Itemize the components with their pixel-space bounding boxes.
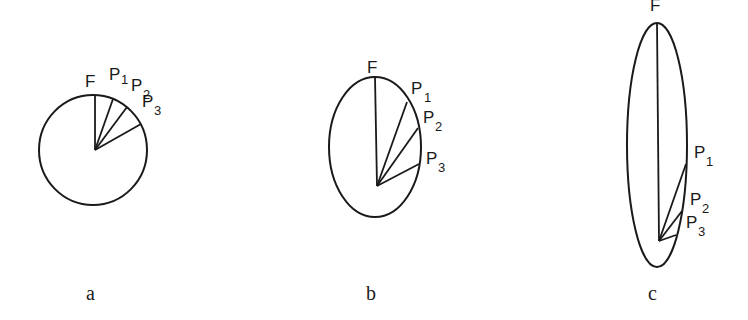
caption-b: b <box>366 282 376 304</box>
label-c-P1: P <box>694 143 705 162</box>
label-c-P3: P <box>686 213 697 232</box>
label-a-P2: P <box>131 76 142 95</box>
caption-c: c <box>648 282 657 304</box>
label-c-P3-sub: 3 <box>698 224 705 239</box>
caption-a: a <box>86 282 95 304</box>
label-b-P1: P <box>411 79 422 98</box>
label-b-P1-sub: 1 <box>424 90 431 105</box>
label-a-F: F <box>85 72 95 91</box>
label-a-P1-sub: 1 <box>121 72 128 87</box>
label-a-P3-sub: 3 <box>154 103 161 118</box>
label-b-P3-sub: 3 <box>438 160 445 175</box>
label-a-P3: P <box>142 92 153 111</box>
orbit-diagram: F P 1 P 2 P 3 a F P 1 P 2 P 3 b F P 1 P … <box>0 0 748 320</box>
label-c-F: F <box>650 0 660 15</box>
ray-b-F <box>375 77 377 186</box>
ray-b-P2 <box>377 128 418 186</box>
label-c-P2: P <box>690 190 701 209</box>
label-b-F: F <box>367 58 377 77</box>
ray-c-F <box>657 23 659 241</box>
orbit-a-outline <box>39 95 147 205</box>
ray-a-P2 <box>95 107 127 150</box>
ray-c-P1 <box>659 164 686 241</box>
panel-b: F P 1 P 2 P 3 b <box>329 58 445 304</box>
label-c-P2-sub: 2 <box>702 201 709 216</box>
label-c-P1-sub: 1 <box>706 154 713 169</box>
label-a-P1: P <box>109 65 120 84</box>
label-b-P3: P <box>426 149 437 168</box>
panel-a: F P 1 P 2 P 3 a <box>39 65 161 304</box>
panel-c: F P 1 P 2 P 3 c <box>627 0 713 304</box>
label-b-P2: P <box>423 108 434 127</box>
label-b-P2-sub: 2 <box>435 119 442 134</box>
